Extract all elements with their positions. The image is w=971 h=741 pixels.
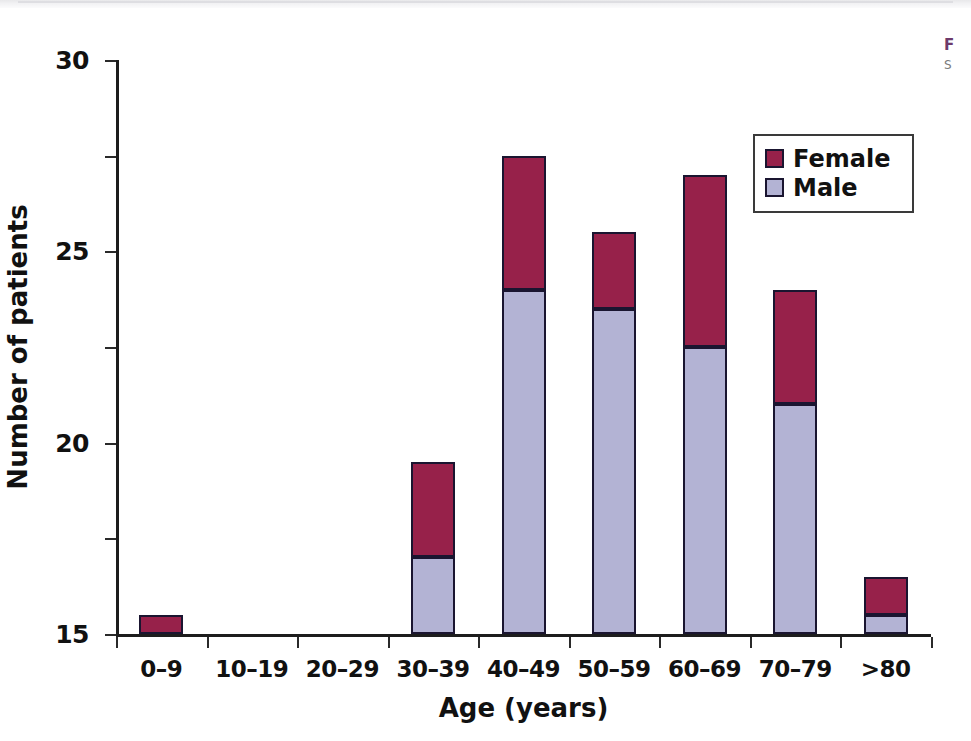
x-tick	[478, 637, 480, 648]
bar-group	[502, 156, 546, 634]
legend-label-male: Male	[793, 176, 858, 200]
x-tick	[569, 637, 571, 648]
bar-segment-female	[773, 290, 817, 405]
x-tick	[750, 637, 752, 648]
x-tick	[840, 637, 842, 648]
bar-segment-male	[411, 557, 455, 634]
legend-item-female: Female	[765, 144, 902, 173]
y-tick: 25	[105, 156, 116, 158]
bar-segment-male	[502, 290, 546, 634]
x-tick	[207, 637, 209, 648]
x-tick-label: 10–19	[215, 656, 288, 682]
x-tick	[297, 637, 299, 648]
bar-segment-female	[683, 175, 727, 347]
bar-segment-male	[773, 404, 817, 634]
y-tick-label: 20	[55, 428, 89, 457]
bar-segment-male	[592, 309, 636, 634]
y-axis-title: Number of patients	[3, 204, 33, 489]
y-tick: 10	[105, 443, 116, 445]
y-tick: 0	[105, 634, 116, 636]
legend-swatch-female-icon	[765, 149, 784, 168]
bar-group	[773, 290, 817, 634]
bar-segment-male	[683, 347, 727, 634]
x-tick-label: 20–29	[306, 656, 379, 682]
x-tick-label: 70–79	[759, 656, 832, 682]
legend-item-male: Male	[765, 173, 902, 202]
legend-swatch-male-icon	[765, 178, 784, 197]
chart-legend: Female Male	[753, 134, 914, 213]
legend-label-female: Female	[793, 147, 890, 171]
bar-group	[411, 462, 455, 634]
bar-segment-female	[502, 156, 546, 290]
bar-segment-female	[592, 232, 636, 309]
bar-group	[683, 175, 727, 634]
x-tick-label: 30–39	[396, 656, 469, 682]
x-tick-label: 60–69	[668, 656, 741, 682]
x-tick	[388, 637, 390, 648]
y-axis-line	[116, 60, 119, 637]
chart-plot-area: Number of patients Age (years) 051015202…	[0, 0, 971, 741]
bar-group	[864, 577, 908, 634]
bar-group	[139, 615, 183, 634]
y-tick: 5	[105, 538, 116, 540]
y-tick: 30	[105, 60, 116, 62]
x-tick	[659, 637, 661, 648]
figure-page: F S Number of patients Age (years) 05101…	[0, 0, 971, 741]
bar-group	[592, 232, 636, 634]
bar-segment-female	[411, 462, 455, 558]
x-tick-label: 40–49	[487, 656, 560, 682]
bar-segment-female	[139, 615, 183, 634]
x-axis-title: Age (years)	[116, 693, 931, 723]
x-axis-line	[116, 634, 931, 637]
bar-segment-male	[864, 615, 908, 634]
x-tick	[116, 637, 118, 648]
y-tick-label: 30	[55, 46, 89, 75]
y-tick: 15	[105, 347, 116, 349]
x-tick-label: 0–9	[140, 656, 182, 682]
y-tick-label: 25	[55, 237, 89, 266]
x-tick-label: >80	[861, 656, 911, 682]
y-tick: 20	[105, 251, 116, 253]
x-tick-label: 50–59	[578, 656, 651, 682]
y-tick-label: 15	[55, 620, 89, 649]
bar-segment-female	[864, 577, 908, 615]
x-tick	[931, 637, 933, 648]
